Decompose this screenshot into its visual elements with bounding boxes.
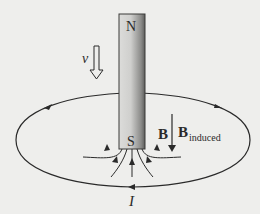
- loop-arrow-icon: [128, 184, 135, 190]
- arrow-icon: [129, 158, 135, 165]
- velocity-label: v: [82, 51, 89, 66]
- b-induced-label: B: [178, 124, 188, 140]
- diagram-canvas: N S v B B induced I: [0, 0, 260, 214]
- arrow-icon: [104, 144, 110, 151]
- velocity-arrow-icon: [90, 46, 103, 79]
- loop-arrow-icon: [214, 104, 222, 108]
- arrow-icon: [154, 144, 160, 151]
- current-label: I: [128, 193, 135, 209]
- b-induced-subscript: induced: [189, 132, 221, 143]
- field-line: [142, 149, 181, 158]
- loop-arrow-icon: [44, 104, 52, 110]
- bar-magnet: N S: [119, 14, 145, 149]
- b-induced-arrowhead-icon: [168, 145, 176, 152]
- b-field-label: B: [158, 126, 168, 142]
- magnet-body: [119, 14, 145, 149]
- magnet-south-label: S: [127, 134, 135, 149]
- magnet-north-label: N: [126, 19, 136, 34]
- field-line: [83, 149, 122, 158]
